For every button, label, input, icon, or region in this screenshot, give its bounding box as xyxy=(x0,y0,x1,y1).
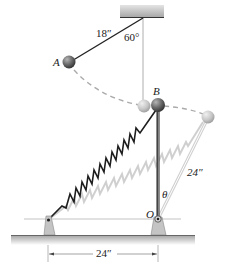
label-rod-length: 24″ xyxy=(187,167,203,178)
label-theta: θ xyxy=(162,189,167,200)
label-point-a: A xyxy=(53,57,60,68)
ground xyxy=(11,235,195,245)
label-pivot-o: O xyxy=(146,209,154,220)
mechanics-diagram: 18″ 60° A B 24″ θ O 24″ xyxy=(0,0,228,274)
label-base-distance: 24″ xyxy=(96,248,112,259)
label-point-b: B xyxy=(153,86,160,97)
ceiling-block xyxy=(120,5,164,18)
dashed-trajectory-right xyxy=(164,106,203,114)
dashed-trajectory xyxy=(74,70,140,105)
ball-a xyxy=(63,56,76,69)
ghost-ball-right xyxy=(202,111,215,124)
main-spring xyxy=(48,110,156,220)
ghost-spring xyxy=(48,122,203,220)
ball-b xyxy=(151,98,165,112)
label-string-length: 18″ xyxy=(96,28,112,39)
ghost-ball-bottom xyxy=(138,100,151,113)
label-angle-60: 60° xyxy=(124,32,139,43)
